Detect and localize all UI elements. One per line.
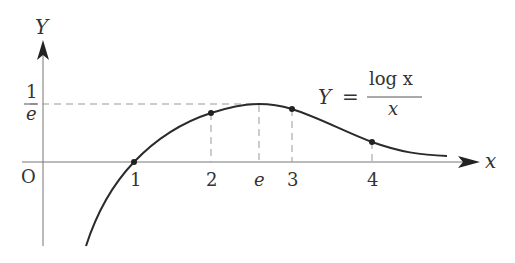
marked-points	[131, 106, 375, 165]
x-tick-3: 3	[287, 169, 298, 190]
y-tick-numerator: 1	[26, 81, 37, 102]
x-tick-e: e	[254, 169, 265, 190]
function-lhs: Y	[318, 85, 333, 109]
function-graph: Y x O 1 e 1 2 e 3 4 Y = log x x	[0, 0, 515, 263]
x-tick-1: 1	[130, 169, 141, 190]
x-tick-4: 4	[367, 169, 378, 190]
function-equals: =	[342, 85, 359, 109]
dashed-guides	[30, 104, 372, 162]
point-x-3	[289, 106, 295, 112]
x-axis	[22, 156, 480, 168]
x-axis-label: x	[485, 149, 496, 173]
x-tick-2: 2	[206, 169, 217, 190]
origin-label: O	[21, 166, 36, 187]
y-axis	[37, 40, 49, 246]
point-x-2	[208, 110, 214, 116]
point-x-1	[131, 159, 137, 165]
point-x-4	[369, 139, 375, 145]
function-numerator: log x	[369, 68, 413, 89]
y-tick-denominator: e	[26, 103, 37, 124]
y-axis-label: Y	[35, 15, 50, 39]
function-label: Y = log x x	[318, 68, 422, 119]
function-denominator: x	[388, 98, 398, 119]
